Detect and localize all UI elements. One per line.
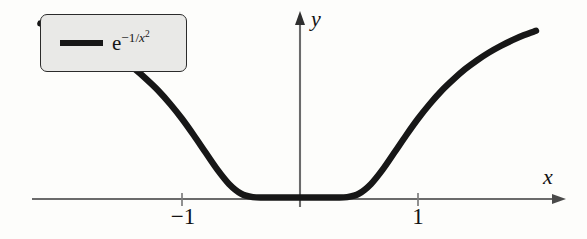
curve-line-swatch	[60, 40, 103, 46]
legend-series-label: e−1/x2	[112, 33, 150, 54]
x-axis-label: x	[543, 166, 553, 188]
legend-box: e−1/x2	[40, 14, 187, 72]
legend-base-symbol: e	[112, 31, 121, 55]
figure-container: e−1/x2 y x −1 1	[0, 0, 587, 239]
x-axis-arrowhead	[552, 194, 566, 204]
y-axis-arrowhead	[295, 11, 305, 25]
x-tick-label-pos1: 1	[402, 205, 434, 228]
legend-exponent-power: 2	[145, 28, 150, 38]
x-tick-label-neg1: −1	[162, 205, 204, 228]
y-axis-label: y	[311, 8, 321, 30]
legend-exponent-prefix: −1/	[121, 30, 139, 45]
